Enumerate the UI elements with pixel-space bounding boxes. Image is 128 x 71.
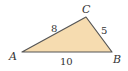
vertex-label-c: C: [82, 3, 91, 16]
vertex-label-a: A: [8, 50, 17, 63]
triangle-diagram: A B C 8 5 10: [0, 0, 128, 71]
triangle-abc: [22, 17, 112, 52]
side-length-cb: 5: [101, 25, 107, 36]
vertex-label-b: B: [112, 53, 121, 66]
side-length-ac: 8: [51, 23, 57, 34]
side-length-ab: 10: [60, 56, 73, 67]
